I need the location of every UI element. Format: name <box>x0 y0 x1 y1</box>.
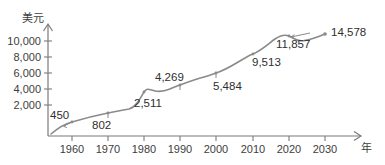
x-tick-label-1960: 1960 <box>60 143 84 155</box>
data-point-1990 <box>179 84 182 87</box>
data-point-1960 <box>71 121 74 124</box>
chart-canvas: 美元 年 10,000 8,000 6,000 4,000 2,000 1960… <box>0 0 385 165</box>
data-point-2000 <box>215 72 218 75</box>
x-tick-label-1990: 1990 <box>168 143 192 155</box>
value-label-1990: 4,269 <box>155 71 184 83</box>
value-label-2010: 9,513 <box>252 56 281 68</box>
y-tick-label-2000: 2,000 <box>13 99 41 111</box>
data-point-2030 <box>323 32 327 36</box>
data-point-1980 <box>143 91 146 94</box>
y-tick-label-4000: 4,000 <box>13 83 41 95</box>
x-tick-label-2000: 2000 <box>204 143 228 155</box>
value-label-1980: 2,511 <box>134 97 162 109</box>
value-label-1970: 802 <box>92 119 111 131</box>
value-label-1960: 450 <box>50 109 69 121</box>
x-axis-title: 年 <box>361 141 372 154</box>
y-tick-label-10000: 10,000 <box>7 35 41 47</box>
value-label-2000: 5,484 <box>213 80 242 92</box>
x-tick-label-2020: 2020 <box>277 143 301 155</box>
value-label-2020: 11,857 <box>276 38 310 50</box>
x-axis <box>48 132 361 142</box>
y-tick-label-6000: 6,000 <box>13 67 41 79</box>
y-tick-label-8000: 8,000 <box>13 51 41 63</box>
x-tick-label-1980: 1980 <box>132 143 156 155</box>
x-tick-label-1970: 1970 <box>96 143 120 155</box>
x-tick-label-2030: 2030 <box>313 143 337 155</box>
value-label-2030: 14,578 <box>331 26 366 38</box>
x-tick-label-2010: 2010 <box>241 143 265 155</box>
label-leaders <box>64 33 311 128</box>
data-point-2010 <box>252 53 255 56</box>
line-chart: 美元 年 10,000 8,000 6,000 4,000 2,000 1960… <box>0 0 385 165</box>
y-axis-title: 美元 <box>22 12 44 24</box>
data-point-1970 <box>107 112 110 115</box>
